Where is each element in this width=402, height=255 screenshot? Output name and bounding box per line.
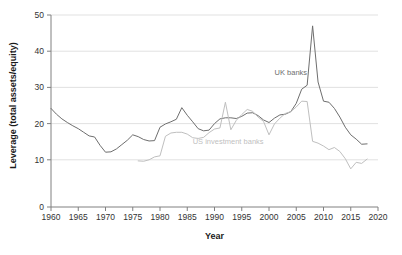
x-tick-label: 1960 <box>42 212 61 222</box>
series-label-us-investment-banks: US investment banks <box>193 137 264 146</box>
x-tick-label: 1995 <box>232 212 251 222</box>
x-tick-label: 1985 <box>178 212 197 222</box>
y-tick-label: 0 <box>39 202 44 212</box>
chart-canvas: 01020304050 1960196519701975198019851990… <box>0 0 402 255</box>
y-tick-label: 50 <box>35 10 45 20</box>
leverage-line-chart: 01020304050 1960196519701975198019851990… <box>0 0 402 255</box>
x-tick-label: 2015 <box>341 212 360 222</box>
series-lines <box>51 26 367 169</box>
series-line-us-investment-banks <box>138 101 367 169</box>
y-axis: 01020304050 <box>35 10 51 212</box>
series-annotations: UK banksUS investment banks <box>193 68 308 147</box>
series-label-uk-banks: UK banks <box>275 68 308 77</box>
x-tick-label: 2005 <box>287 212 306 222</box>
y-tick-label: 40 <box>35 46 45 56</box>
y-tick-label: 30 <box>35 82 45 92</box>
x-tick-label: 1970 <box>96 212 115 222</box>
x-tick-label: 1990 <box>205 212 224 222</box>
x-axis-title: Year <box>205 231 225 241</box>
x-tick-label: 2000 <box>260 212 279 222</box>
x-axis: 1960196519701975198019851990199520002005… <box>42 207 388 222</box>
y-axis-title: Leverage (total assets/equity) <box>8 42 18 169</box>
y-tick-label: 20 <box>35 119 45 129</box>
x-tick-label: 1975 <box>123 212 142 222</box>
x-tick-label: 2010 <box>314 212 333 222</box>
x-tick-label: 2020 <box>369 212 388 222</box>
x-tick-label: 1965 <box>69 212 88 222</box>
x-tick-label: 1980 <box>151 212 170 222</box>
y-tick-label: 10 <box>35 155 45 165</box>
